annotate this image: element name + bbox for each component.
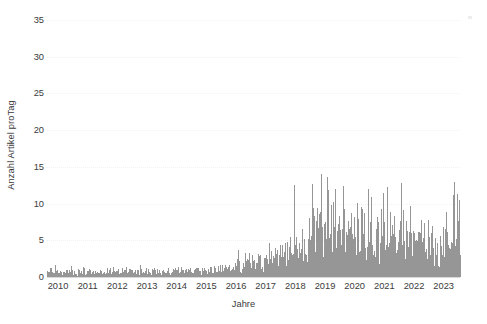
x-tick-label: 2015	[196, 281, 217, 291]
y-tick-label: 10	[20, 199, 44, 209]
stray-mark	[468, 16, 472, 19]
plot-area	[47, 20, 460, 277]
x-tick-label: 2014	[166, 281, 187, 291]
x-tick-label: 2018	[285, 281, 306, 291]
y-tick-label: 25	[20, 88, 44, 98]
bar	[460, 255, 461, 277]
x-tick-label: 2016	[226, 281, 247, 291]
x-tick-label: 2021	[374, 281, 395, 291]
x-tick-label: 2022	[404, 281, 425, 291]
y-tick-label: 30	[20, 52, 44, 62]
x-tick-label: 2011	[78, 281, 98, 291]
y-axis-title: Anzahl Artikel proTag	[2, 0, 20, 290]
bar-chart-figure: Anzahl Artikel proTag 05101520253035 201…	[0, 0, 487, 324]
y-tick-label: 15	[20, 162, 44, 172]
x-tick-label: 2012	[107, 281, 128, 291]
x-tick-label: 2017	[255, 281, 276, 291]
x-tick-label: 2010	[48, 281, 69, 291]
x-tick-label: 2013	[137, 281, 158, 291]
y-tick-label: 20	[20, 125, 44, 135]
y-tick-label: 5	[20, 235, 44, 245]
x-axis-title: Jahre	[0, 299, 487, 309]
x-axis-line	[47, 277, 460, 278]
bar-series	[47, 20, 460, 277]
y-tick-label: 35	[20, 15, 44, 25]
x-tick-label: 2023	[433, 281, 454, 291]
x-tick-label: 2019	[315, 281, 336, 291]
y-tick-label: 0	[20, 272, 44, 282]
x-tick-label: 2020	[344, 281, 365, 291]
y-axis-title-text: Anzahl Artikel proTag	[6, 100, 16, 189]
